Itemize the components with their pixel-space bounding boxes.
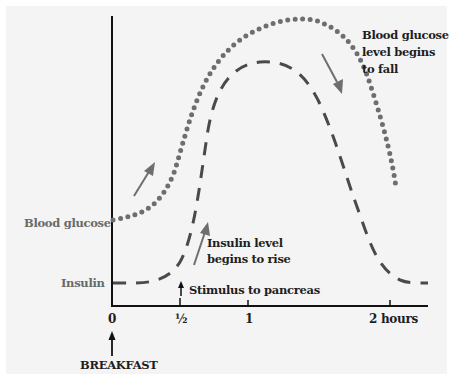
stimulus-arrow-icon — [178, 281, 184, 296]
glucose-fall-line3: to fall — [362, 62, 398, 77]
insulin-rise-line1: Insulin level — [207, 236, 283, 251]
y-label-insulin: Insulin — [61, 276, 105, 291]
glucose-fall-arrow-icon — [322, 54, 343, 94]
glucose-rise-arrow-icon — [134, 162, 155, 196]
breakfast-arrow-icon — [109, 331, 116, 356]
x-tick-1: 1 — [245, 312, 253, 327]
blood-glucose-curve — [113, 19, 396, 220]
glucose-fall-line1: Blood glucose — [362, 28, 449, 43]
x-tick-half: ½ — [175, 312, 187, 327]
x-tick-2-hours: 2 hours — [369, 312, 418, 327]
stimulus-label: Stimulus to pancreas — [189, 283, 320, 298]
y-label-blood-glucose: Blood glucose — [24, 216, 111, 231]
x-tick-0: 0 — [108, 312, 116, 327]
insulin-rise-line2: begins to rise — [207, 252, 291, 267]
breakfast-label: BREAKFAST — [80, 358, 158, 373]
glucose-fall-line2: level begins — [362, 45, 435, 60]
